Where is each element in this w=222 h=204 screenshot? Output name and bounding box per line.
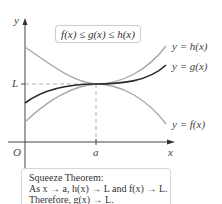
inequality-text: f(x) ≤ g(x) ≤ h(x) [61,28,135,40]
theorem-box: Squeeze Theorem: As x → a, h(x) → L and … [21,168,171,204]
theorem-statement: As x → a, h(x) → L and f(x) → L. [29,183,170,194]
origin-label: O [13,146,21,158]
curve-f [25,84,166,124]
x-axis-arrow-icon [167,140,175,145]
y-axis-arrow-icon [23,18,28,25]
l-label: L [12,77,18,89]
h-curve-label: y = h(x) [172,40,208,52]
theorem-title: Squeeze Theorem: [29,172,170,183]
g-curve-label: y = g(x) [172,60,208,72]
a-label: a [93,146,99,158]
f-curve-label: y = f(x) [172,118,205,130]
inequality-box: f(x) ≤ g(x) ≤ h(x) [55,25,141,43]
x-axis-label: x [168,146,173,158]
y-axis-label: y [14,14,19,26]
theorem-conclusion: Therefore, g(x) → L. [29,194,170,204]
